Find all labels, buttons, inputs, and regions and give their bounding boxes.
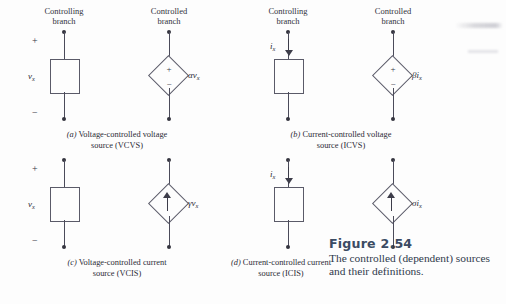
polarity-plus: + [32, 164, 38, 174]
panel-tag: (d) [231, 258, 241, 267]
wire-bottom [288, 220, 289, 247]
terminal-node-bottom [167, 117, 171, 121]
label-vx: vx [28, 199, 35, 212]
panel-a-controlling-branch: + − vx [8, 30, 120, 130]
label-vx: vx [28, 71, 35, 84]
figure-description: The controlled (dependent) sources and t… [329, 252, 505, 279]
wire-bottom [169, 216, 170, 247]
polarity-minus: − [32, 236, 38, 246]
wire-top [64, 160, 65, 187]
current-source-arrow [385, 192, 398, 213]
panel-b-caption: (b) Current-controlled voltage source (I… [230, 130, 452, 151]
caption-line2: source (VCVS) [6, 141, 228, 152]
label-gain-expression: σix [412, 198, 422, 211]
header-line1: Controlling [268, 6, 307, 16]
source-plus: + [385, 65, 401, 74]
header-line2: branch [276, 16, 299, 26]
header-line1: Controlling [44, 6, 83, 16]
terminal-node-bottom [391, 117, 395, 121]
panel-c-controlling-branch: + − vx [8, 158, 120, 258]
panel-tag: (b) [291, 130, 301, 139]
label-gain-expression: αvx [188, 70, 200, 83]
caption-line1: Current-controlled voltage [302, 130, 391, 139]
label-ix: ix [270, 41, 275, 54]
panel-b-controlled-header: Controlled branch [337, 6, 449, 26]
label-ix: ix [270, 169, 275, 182]
arrow-head [285, 50, 293, 56]
header-line2: branch [157, 16, 180, 26]
label-subscript: x [196, 202, 199, 209]
label-subscript: x [419, 74, 422, 81]
terminal-node-bottom [62, 117, 66, 121]
label-subscript: x [273, 173, 276, 180]
panel-a-caption: (a) Voltage-controlled voltage source (V… [6, 130, 228, 151]
arrow-shaft [167, 196, 168, 211]
label-subscript: x [32, 203, 35, 210]
element-box [50, 59, 80, 94]
arrow-head [285, 178, 293, 184]
label-gain-expression: βix [412, 70, 422, 83]
header-line2: branch [381, 16, 404, 26]
figure-2-54: Controlling branch Controlled branch + −… [0, 0, 506, 304]
scan-artifact-2 [468, 50, 498, 53]
panel-a-controlling-header: Controlling branch [8, 6, 120, 26]
wire-bottom [64, 92, 65, 119]
label-subscript: x [32, 75, 35, 82]
wire-bottom [288, 92, 289, 119]
figure-description-line2: and their definitions. [329, 265, 424, 277]
caption-line2: source (ICVS) [230, 141, 452, 152]
terminal-node-bottom [62, 245, 66, 249]
figure-number: Figure 2.54 [329, 236, 505, 251]
wire-bottom [169, 88, 170, 119]
panel-tag: (a) [67, 130, 77, 139]
header-line1: Controlled [151, 6, 187, 16]
terminal-node-bottom [286, 117, 290, 121]
label-subscript: x [197, 74, 200, 81]
panel-a-controlled-header: Controlled branch [113, 6, 225, 26]
header-line2: branch [52, 16, 75, 26]
figure-description-line1: The controlled (dependent) sources [329, 252, 490, 264]
element-box [274, 187, 304, 222]
panel-b-controlling-header: Controlling branch [232, 6, 344, 26]
figure-caption-block: Figure 2.54 The controlled (dependent) s… [329, 236, 505, 279]
terminal-node-bottom [167, 245, 171, 249]
polarity-plus: + [32, 36, 38, 46]
wire-top [64, 32, 65, 59]
caption-line1: Voltage-controlled voltage [78, 130, 167, 139]
element-box [50, 187, 80, 222]
arrow-shaft [391, 196, 392, 211]
polarity-minus: − [32, 108, 38, 118]
panel-a-controlled-branch: + − αvx [113, 30, 225, 130]
label-gain-expression: γvx [188, 198, 198, 211]
panel-b-controlling-branch: ix [232, 30, 344, 130]
label-subscript: x [273, 45, 276, 52]
panel-c-controlled-branch: γvx [113, 158, 225, 258]
terminal-node-bottom [286, 245, 290, 249]
current-source-arrow [161, 192, 174, 213]
source-plus: + [161, 65, 177, 74]
header-line1: Controlled [375, 6, 411, 16]
wire-bottom [393, 88, 394, 119]
panel-tag: (c) [67, 258, 76, 267]
source-minus: − [385, 80, 401, 89]
scan-artifact [455, 23, 503, 28]
element-box [274, 59, 304, 94]
caption-line1: Current-controlled current [243, 258, 331, 267]
panel-b-controlled-branch: + − βix [337, 30, 449, 130]
panel-d-controlling-branch: ix [232, 158, 344, 258]
wire-bottom [64, 220, 65, 247]
source-minus: − [161, 80, 177, 89]
label-subscript: x [419, 202, 422, 209]
caption-line1: Voltage-controlled current [79, 258, 167, 267]
